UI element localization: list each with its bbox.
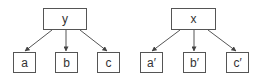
node-b: b bbox=[55, 52, 78, 73]
node-a: a bbox=[13, 52, 36, 73]
node-b-prime: b′ bbox=[183, 52, 206, 73]
edge-y-c bbox=[80, 30, 107, 51]
node-c: c bbox=[97, 52, 120, 73]
edge-x-c-prime bbox=[208, 30, 236, 51]
node-label: a′ bbox=[147, 56, 156, 70]
edge-y-a bbox=[25, 30, 52, 51]
node-c-prime: c′ bbox=[226, 52, 249, 73]
node-root-x: x bbox=[171, 8, 216, 30]
node-label: c′ bbox=[233, 56, 241, 70]
node-label: b′ bbox=[190, 56, 199, 70]
node-root-y: y bbox=[43, 8, 87, 30]
node-label: c bbox=[106, 56, 112, 70]
node-label: a bbox=[21, 56, 28, 70]
node-a-prime: a′ bbox=[140, 52, 163, 73]
node-label: b bbox=[63, 56, 70, 70]
edges-layer bbox=[0, 0, 261, 81]
edge-x-a-prime bbox=[152, 30, 180, 51]
node-label: x bbox=[191, 12, 197, 26]
node-label: y bbox=[62, 12, 68, 26]
